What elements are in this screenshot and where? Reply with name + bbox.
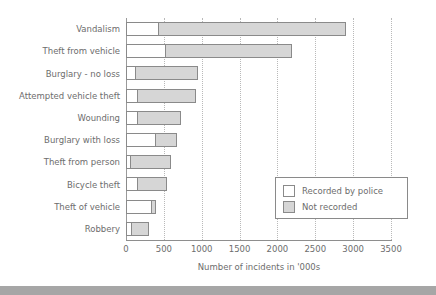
bar-row bbox=[126, 85, 391, 107]
stacked-bar bbox=[126, 22, 346, 36]
legend-item-recorded: Recorded by police bbox=[283, 183, 407, 199]
category-label-theft-from-person: Theft from person bbox=[0, 157, 120, 167]
category-label-attempted-vehicle-theft: Attempted vehicle theft bbox=[0, 91, 120, 101]
legend-label-not-recorded: Not recorded bbox=[302, 202, 357, 212]
chart-legend: Recorded by police Not recorded bbox=[275, 177, 408, 219]
category-label-vandalism: Vandalism bbox=[0, 24, 120, 34]
stacked-bar bbox=[126, 177, 167, 191]
bar-segment-not-recorded bbox=[158, 22, 346, 36]
bar-segment-not-recorded bbox=[151, 200, 156, 214]
bar-row bbox=[126, 18, 391, 40]
x-tick-label-0: 0 bbox=[123, 244, 128, 255]
x-tick-label-3000: 3000 bbox=[342, 244, 364, 255]
legend-label-recorded: Recorded by police bbox=[302, 186, 383, 196]
white-square-icon bbox=[283, 185, 295, 197]
bar-row bbox=[126, 62, 391, 84]
bar-row bbox=[126, 129, 391, 151]
category-label-bicycle-theft: Bicycle theft bbox=[0, 180, 120, 190]
bar-segment-not-recorded bbox=[165, 44, 292, 58]
x-tick-label-2000: 2000 bbox=[267, 244, 289, 255]
x-tick-label-3500: 3500 bbox=[380, 244, 402, 255]
bar-segment-recorded bbox=[126, 66, 135, 80]
bar-segment-recorded bbox=[126, 200, 151, 214]
bar-segment-not-recorded bbox=[137, 177, 167, 191]
bar-row bbox=[126, 218, 391, 240]
stacked-bar bbox=[126, 111, 181, 125]
stacked-bar bbox=[126, 222, 149, 236]
bar-segment-recorded bbox=[126, 89, 137, 103]
stacked-bar bbox=[126, 200, 156, 214]
x-tick-label-1500: 1500 bbox=[229, 244, 251, 255]
bar-segment-recorded bbox=[126, 111, 137, 125]
category-label-wounding: Wounding bbox=[0, 113, 120, 123]
x-tick-label-500: 500 bbox=[156, 244, 172, 255]
category-label-theft-of-vehicle: Theft of vehicle bbox=[0, 202, 120, 212]
x-tick-label-1000: 1000 bbox=[191, 244, 213, 255]
stacked-bar-chart: VandalismTheft from vehicleBurglary - no… bbox=[0, 0, 436, 295]
gray-square-icon bbox=[283, 201, 295, 213]
stacked-bar bbox=[126, 66, 198, 80]
x-axis-title: Number of incidents in '000s bbox=[126, 262, 392, 272]
category-label-robbery: Robbery bbox=[0, 224, 120, 234]
x-axis-line bbox=[126, 240, 392, 241]
bar-segment-not-recorded bbox=[137, 89, 197, 103]
bar-segment-recorded bbox=[126, 44, 165, 58]
bar-segment-recorded bbox=[126, 22, 158, 36]
stacked-bar bbox=[126, 89, 196, 103]
category-label-burglary-with-loss: Burglary with loss bbox=[0, 135, 120, 145]
bar-segment-not-recorded bbox=[137, 111, 180, 125]
bar-segment-not-recorded bbox=[155, 133, 178, 147]
bar-row bbox=[126, 40, 391, 62]
stacked-bar bbox=[126, 133, 177, 147]
bar-segment-not-recorded bbox=[130, 155, 172, 169]
bar-segment-recorded bbox=[126, 177, 137, 191]
legend-item-not-recorded: Not recorded bbox=[283, 199, 407, 215]
bar-segment-not-recorded bbox=[131, 222, 150, 236]
x-axis-tick-labels: 0500100015002000250030003500 bbox=[126, 244, 391, 258]
category-label-burglary-no-loss: Burglary - no loss bbox=[0, 69, 120, 79]
bar-segment-not-recorded bbox=[135, 66, 198, 80]
x-tick-label-2500: 2500 bbox=[304, 244, 326, 255]
footer-strip bbox=[0, 286, 436, 295]
bar-segment-recorded bbox=[126, 133, 155, 147]
category-axis-labels: VandalismTheft from vehicleBurglary - no… bbox=[0, 18, 120, 240]
stacked-bar bbox=[126, 44, 292, 58]
bar-row bbox=[126, 151, 391, 173]
stacked-bar bbox=[126, 155, 171, 169]
category-label-theft-from-vehicle: Theft from vehicle bbox=[0, 46, 120, 56]
bar-row bbox=[126, 107, 391, 129]
